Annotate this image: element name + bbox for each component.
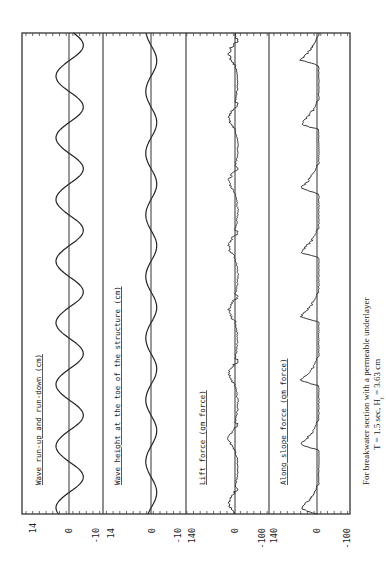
panel-label-wave-runup: Wave run-up and run-down (cm) <box>34 354 43 485</box>
tick-label: -10 <box>91 528 101 543</box>
caption-height: = 3.63 cm <box>372 359 382 398</box>
tick-label: 14 <box>106 528 116 538</box>
series-curve-panel-4 <box>300 33 320 514</box>
tick-label: 0 <box>230 528 240 533</box>
tick-label: -10 <box>173 528 183 543</box>
frame-ticks <box>26 33 348 514</box>
figure-caption-line-2: T = 1.5 sec, Ht = 3.63 cm <box>372 359 385 450</box>
panel-label-lift-force: Lift force (gm force) <box>198 390 207 485</box>
series-curve-panel-3 <box>228 33 239 514</box>
tick-label: 140 <box>187 528 197 543</box>
caption-params: T = 1.5 sec, H <box>372 399 382 450</box>
tick-label: -100 <box>257 528 267 548</box>
chart-figure: 14 0 -10 14 0 -10 140 0 -100 140 0 -100 … <box>0 0 386 570</box>
tick-label: -100 <box>342 528 352 548</box>
tick-label: 0 <box>312 528 322 533</box>
tick-label: 140 <box>269 528 279 543</box>
panel-label-along-slope-force: Along slope force (gm force) <box>279 359 288 485</box>
panel-label-wave-height: Wave height at the toe of the structure … <box>113 286 122 485</box>
figure-caption-line-1: For breakwater section with a permeable … <box>361 298 371 485</box>
series-curve-panel-1 <box>56 33 83 514</box>
tick-label: 0 <box>64 528 74 533</box>
tick-label: 0 <box>147 528 157 533</box>
tick-label: 14 <box>28 523 38 533</box>
